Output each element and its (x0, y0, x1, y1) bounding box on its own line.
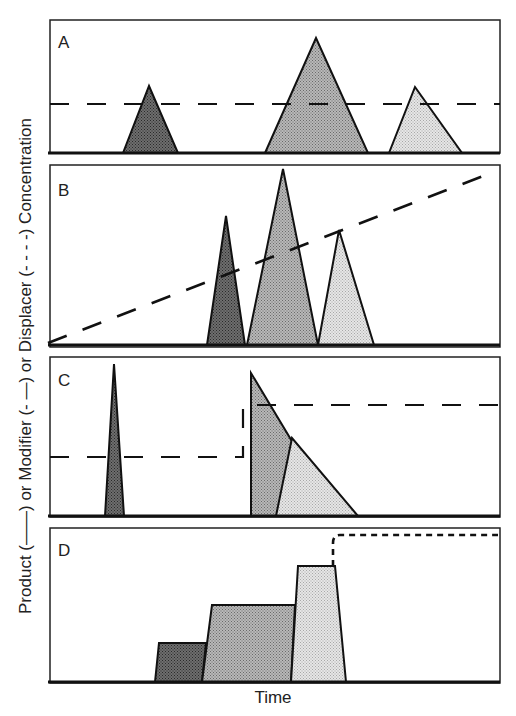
band-dark (155, 643, 206, 682)
band-light (291, 566, 346, 682)
panel-d: D (48, 528, 500, 683)
peak-dark (123, 86, 178, 153)
y-axis-label-text: Product (——) or Modifier (- —) or Displa… (16, 118, 36, 614)
peak-medium (265, 38, 368, 153)
panel-a-letter: A (58, 33, 70, 52)
peak-light (318, 230, 374, 345)
band-medium (202, 605, 295, 682)
panel-a: A (48, 20, 500, 153)
chromatography-figure: A B C D (0, 0, 516, 716)
displacer-front-line (333, 535, 498, 566)
panel-c: C (48, 357, 500, 517)
y-axis-label: Product (——) or Modifier (- —) or Displa… (2, 0, 42, 716)
panel-b: B (48, 165, 500, 347)
peak-medium (247, 169, 318, 345)
peak-dark (105, 364, 124, 516)
peak-light (389, 87, 462, 153)
panel-b-letter: B (58, 181, 69, 200)
panel-c-letter: C (58, 371, 70, 390)
panel-d-letter: D (58, 541, 70, 560)
x-axis-label: Time (0, 688, 516, 708)
peak-dark (207, 216, 245, 345)
